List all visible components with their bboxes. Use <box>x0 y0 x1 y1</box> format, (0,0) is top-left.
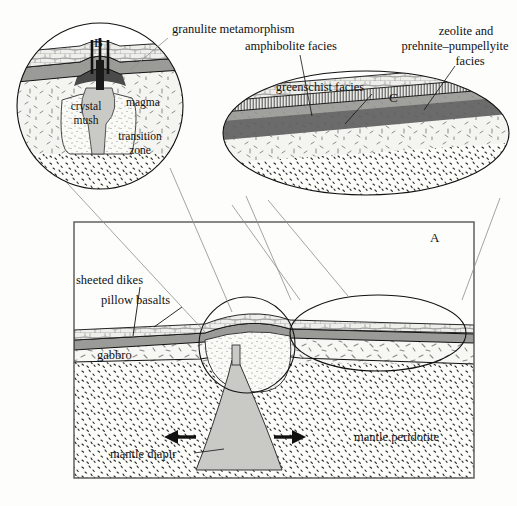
inset-b-peridotite <box>17 152 183 189</box>
label-mantle-peridotite: mantle peridotite <box>354 430 439 444</box>
label-gabbro: gabbro <box>97 348 132 362</box>
label-zeolite-line1: zeolite and <box>439 24 494 38</box>
panel-b-inset: B crystal mush magma transition zone <box>17 23 183 189</box>
label-sheeted-dikes: sheeted dikes <box>76 273 143 287</box>
panel-c-inset: C <box>223 64 509 196</box>
label-transition-zone-1: transition <box>118 130 162 142</box>
panel-b-label: B <box>94 35 103 50</box>
label-crystal-mush-1: crystal <box>71 100 102 113</box>
label-transition-zone-2: zone <box>129 144 151 156</box>
panel-c-label: C <box>389 90 398 105</box>
label-amphibolite-facies: amphibolite facies <box>245 39 337 53</box>
label-pillow-basalts: pillow basalts <box>101 293 170 307</box>
label-greenschist-facies: greenschist facies <box>276 80 365 94</box>
label-zeolite-line3: facies <box>455 54 484 68</box>
figure-canvas: A sheeted dikes pillow basalts gabbro ma… <box>0 0 517 506</box>
label-granulite-metamorphism: granulite metamorphism <box>172 22 295 36</box>
panel-a-label: A <box>430 230 440 245</box>
label-zeolite-line2: prehnite–pumpellyite <box>402 39 509 53</box>
label-mantle-diapir: mantle diapir <box>110 447 177 461</box>
label-magma: magma <box>126 96 160 109</box>
label-crystal-mush-2: mush <box>74 114 99 126</box>
main-diapir-conduit <box>232 345 240 365</box>
